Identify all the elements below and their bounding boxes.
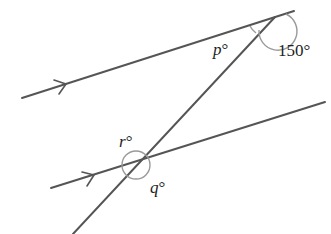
angle-arc-p [250,26,256,33]
top-parallel-line [22,11,294,98]
label-r: r° [119,132,132,151]
label-150: 150° [278,41,310,60]
parallel-arrow-icon-bottom [82,172,94,186]
label-q: q° [150,178,165,197]
label-p: p° [212,40,228,59]
geometry-diagram: p° 150° r° q° [0,0,331,234]
